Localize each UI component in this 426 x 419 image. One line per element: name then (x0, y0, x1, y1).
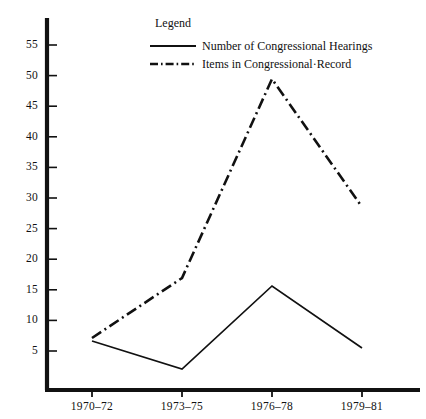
y-tick-label-30: 30 (8, 192, 38, 204)
y-tick-label-10: 10 (8, 314, 38, 326)
legend-entry-record-label: Items in Congressional·Record (202, 58, 351, 70)
x-tick-label-1973-75: 1973–75 (142, 401, 222, 413)
line-chart: 55 50 45 40 35 30 25 20 15 10 5 1970–72 … (0, 0, 426, 419)
y-tick-label-15: 15 (8, 284, 38, 296)
x-tick-label-1976-78: 1976–78 (232, 401, 312, 413)
y-axis-ticks (49, 45, 57, 351)
y-tick-label-20: 20 (8, 253, 38, 265)
series-line-hearings (92, 286, 362, 369)
x-tick-label-1970-72: 1970–72 (52, 401, 132, 413)
legend-entry-hearings-label: Number of Congressional Hearings (202, 40, 372, 52)
y-tick-label-50: 50 (8, 70, 38, 82)
y-tick-label-25: 25 (8, 223, 38, 235)
series-line-record (92, 79, 362, 338)
y-tick-label-40: 40 (8, 131, 38, 143)
y-tick-label-45: 45 (8, 100, 38, 112)
y-tick-label-35: 35 (8, 161, 38, 173)
legend-title: Legend (155, 17, 191, 29)
x-tick-label-1979-81: 1979–81 (322, 401, 402, 413)
y-tick-label-55: 55 (8, 39, 38, 51)
y-tick-label-5: 5 (8, 345, 38, 357)
